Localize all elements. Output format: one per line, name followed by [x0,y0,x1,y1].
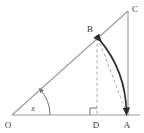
angle-label-x: x [30,104,35,113]
vertex-label-O: O [5,120,12,130]
geometry-diagram: O D A C B x [0,0,144,133]
vertex-label-C: C [132,4,138,14]
right-angle-marker-at-D [90,108,97,115]
vertex-label-D: D [93,120,100,130]
dashed-segment-BA [98,38,127,114]
angle-arc-at-O [40,90,50,115]
hypotenuse-line-OC [12,11,128,115]
vertex-label-B: B [87,24,93,34]
vertex-label-A: A [124,120,131,130]
diagram-canvas: O D A C B x [0,0,144,133]
